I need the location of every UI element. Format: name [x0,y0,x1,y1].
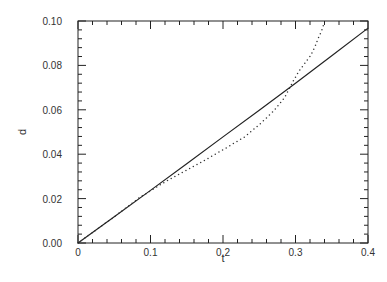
y-tick-label: 0.02 [43,194,63,205]
x-axis-label: t [221,252,224,264]
axis-ticks [78,21,368,243]
data-series [77,25,368,244]
y-tick-label: 0.08 [43,60,63,71]
y-tick-label: 0.10 [43,16,63,27]
tick-labels: 00.10.20.30.40.000.020.040.060.080.10 [43,16,376,258]
x-tick-label: 0.1 [144,247,158,258]
x-tick-label: 0 [75,247,81,258]
y-axis-label: d [16,129,28,135]
x-tick-label: 0.4 [361,247,375,258]
series-dotted-line [77,25,324,244]
x-tick-label: 0.3 [289,247,303,258]
plot-frame [78,21,368,243]
y-tick-label: 0.00 [43,238,63,249]
y-tick-label: 0.06 [43,105,63,116]
y-tick-label: 0.04 [43,149,63,160]
chart: 00.10.20.30.40.000.020.040.060.080.10 t … [0,0,387,282]
